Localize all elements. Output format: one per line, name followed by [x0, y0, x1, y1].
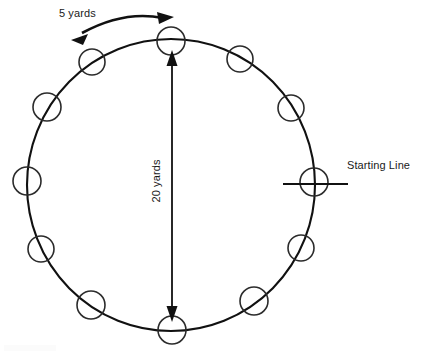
diameter-arrowhead-bottom [167, 306, 178, 322]
diameter-label: 20 yards [150, 160, 162, 203]
track-diagram-canvas [0, 0, 425, 357]
runner-marker-lower-left [77, 291, 105, 319]
track-diagram: 5 yards 20 yards Starting Line [0, 0, 425, 357]
spacing-arrowhead-left [71, 34, 88, 45]
spacing-label: 5 yards [59, 7, 96, 19]
runner-marker-top [157, 27, 185, 55]
track-circle-path [27, 39, 315, 331]
runner-marker-upper-right [227, 46, 253, 72]
diameter-arrowhead-top [167, 50, 178, 66]
runner-marker-right-upper [278, 95, 304, 121]
spacing-arrowhead-right [157, 12, 174, 24]
runner-marker-lower-right [240, 287, 268, 315]
page-corner-artifact [4, 345, 56, 351]
starting-line-label: Starting Line [347, 159, 410, 171]
runner-marker-left-upper [33, 93, 61, 121]
